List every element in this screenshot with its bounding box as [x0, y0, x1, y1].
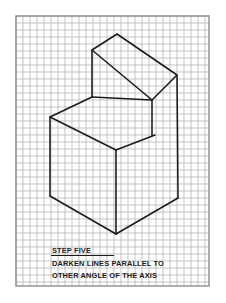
- caption-title: STEP FIVE: [52, 246, 91, 255]
- drawing-sheet: STEP FIVE DARKEN LINES PARALLEL TO OTHER…: [0, 0, 226, 303]
- caption-line-1: DARKEN LINES PARALLEL TO: [52, 259, 164, 268]
- sheet-background: [0, 0, 226, 303]
- isometric-drawing-svg: STEP FIVE DARKEN LINES PARALLEL TO OTHER…: [0, 0, 226, 303]
- object-line-5: [177, 75, 178, 198]
- caption-line-2: OTHER ANGLE OF THE AXIS: [52, 271, 157, 280]
- page-root: STEP FIVE DARKEN LINES PARALLEL TO OTHER…: [0, 0, 226, 303]
